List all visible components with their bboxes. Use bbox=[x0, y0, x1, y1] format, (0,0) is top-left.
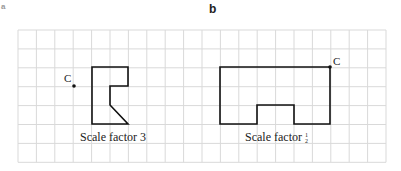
caption-b-text: Scale factor bbox=[245, 130, 302, 144]
centre-label-b: C bbox=[333, 55, 340, 67]
grid-diagram bbox=[0, 0, 401, 171]
centre-point-a bbox=[72, 84, 76, 88]
shape-b bbox=[220, 67, 330, 124]
caption-b: Scale factor 12 bbox=[245, 130, 308, 145]
centre-point-b bbox=[328, 65, 332, 69]
caption-a: Scale factor 3 bbox=[80, 130, 146, 145]
centre-label-a: C bbox=[64, 72, 71, 84]
fraction-half: 12 bbox=[305, 132, 308, 144]
